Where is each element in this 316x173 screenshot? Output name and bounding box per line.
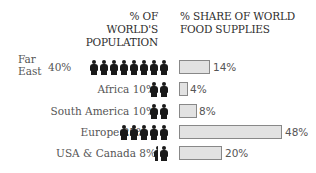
population-pictogram: [150, 82, 168, 97]
person-icon: [120, 125, 128, 140]
food-bar: [179, 60, 210, 74]
person-icon: [120, 60, 128, 75]
food-value: 20%: [225, 147, 248, 159]
row-europe: Europe 25% 48%: [0, 122, 316, 142]
person-icon: [140, 125, 148, 140]
food-bar: [179, 125, 282, 139]
person-icon: [160, 125, 168, 140]
food-bar: [179, 104, 197, 118]
row-far-east: Far East 40% 14%: [0, 57, 316, 77]
person-icon: [130, 125, 138, 140]
row-usa-canada: USA & Canada 8% 20%: [0, 143, 316, 163]
food-value: 48%: [285, 126, 308, 138]
person-icon: [150, 60, 158, 75]
region-line1: Far: [18, 53, 42, 65]
region-label: South America 10%: [50, 105, 156, 117]
person-icon: [160, 104, 168, 119]
population-value: 40%: [48, 61, 71, 73]
population-pictogram: [90, 60, 168, 75]
person-icon: [150, 125, 158, 140]
food-header-line2: FOOD SUPPLIES: [180, 23, 316, 36]
region-label: Africa 10%: [98, 83, 156, 95]
region-label: USA & Canada 8%: [56, 147, 156, 159]
food-value: 14%: [213, 61, 236, 73]
food-header-line1: % SHARE OF WORLD: [180, 10, 316, 23]
person-icon: [100, 60, 108, 75]
population-pictogram: [150, 104, 168, 119]
population-pictogram: [154, 146, 168, 161]
region-label: Far East: [18, 53, 42, 77]
row-africa: Africa 10% 4%: [0, 79, 316, 99]
food-header: % SHARE OF WORLD FOOD SUPPLIES: [180, 10, 316, 36]
person-icon: [160, 146, 168, 161]
person-icon: [160, 60, 168, 75]
person-icon: [90, 60, 98, 75]
row-south-america: South America 10% 8%: [0, 101, 316, 121]
population-pictogram: [120, 125, 168, 140]
person-icon: [110, 60, 118, 75]
person-icon: [150, 104, 158, 119]
population-header: % OF WORLD'S POPULATION: [78, 10, 158, 49]
region-line2: East: [18, 65, 42, 77]
person-icon: [130, 60, 138, 75]
population-header-line2: POPULATION: [78, 36, 158, 49]
half-person-icon: [154, 146, 158, 161]
person-icon: [140, 60, 148, 75]
population-header-line1: % OF WORLD'S: [78, 10, 158, 36]
person-icon: [160, 82, 168, 97]
food-value: 8%: [199, 105, 216, 117]
food-bar: [179, 82, 188, 96]
food-bar: [179, 146, 222, 160]
person-icon: [150, 82, 158, 97]
food-value: 4%: [190, 83, 207, 95]
